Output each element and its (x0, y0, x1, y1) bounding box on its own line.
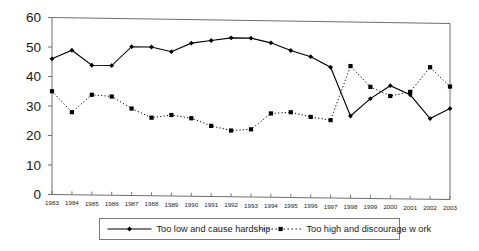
line-chart: 0102030405060 19831984198519861987198819… (0, 0, 479, 251)
data-point-1997 (329, 118, 333, 122)
x-tick-label-2001: 2001 (403, 204, 417, 211)
x-tick-label-1999: 1999 (364, 203, 378, 210)
data-point-2003 (448, 106, 453, 111)
data-point-1983 (50, 56, 55, 61)
data-point-1988 (149, 45, 154, 50)
series-line (52, 38, 450, 119)
data-point-1993 (249, 127, 253, 131)
data-point-1988 (149, 116, 153, 120)
x-tick-label-1987: 1987 (125, 200, 139, 207)
y-tick-label-30: 30 (26, 99, 41, 114)
y-tick-label-20: 20 (26, 128, 41, 143)
x-tick-label-1986: 1986 (105, 200, 119, 207)
data-point-1990 (189, 116, 193, 120)
x-tick-label-1989: 1989 (165, 201, 179, 208)
legend-square-icon (279, 227, 283, 231)
data-point-2000 (388, 94, 392, 98)
data-point-2002 (428, 65, 432, 69)
data-point-1998 (348, 64, 352, 68)
x-tick-label-1992: 1992 (224, 201, 238, 208)
data-point-1994 (269, 40, 274, 45)
x-tick-label-1988: 1988 (145, 200, 159, 207)
x-tick-label-1995: 1995 (284, 202, 298, 209)
x-axis-labels: 1983198419851986198719881989199019911992… (45, 199, 457, 211)
data-point-2001 (408, 90, 412, 94)
data-point-1991 (209, 124, 213, 128)
data-point-1986 (110, 94, 114, 98)
x-tick-label-1997: 1997 (324, 203, 338, 210)
y-tick-label-60: 60 (26, 10, 41, 25)
data-point-1995 (289, 110, 293, 114)
data-point-1989 (169, 49, 174, 54)
data-point-1992 (229, 35, 234, 40)
data-point-1985 (90, 93, 94, 97)
data-point-1989 (169, 113, 173, 117)
data-point-1984 (70, 110, 74, 114)
y-tick-label-0: 0 (33, 187, 41, 202)
data-point-2003 (448, 84, 452, 88)
x-tick-label-1996: 1996 (304, 202, 318, 209)
x-tick-label-1990: 1990 (184, 201, 198, 208)
data-point-1996 (308, 54, 313, 59)
plot-frame (52, 18, 450, 200)
x-tick-label-1998: 1998 (344, 203, 358, 210)
data-point-1996 (309, 115, 313, 119)
x-tick-label-1994: 1994 (264, 202, 278, 209)
x-tick-label-2003: 2003 (443, 204, 457, 211)
y-axis-labels: 0102030405060 (26, 10, 41, 202)
data-point-1994 (269, 111, 273, 115)
y-tick-label-40: 40 (26, 69, 41, 84)
x-tick-label-2000: 2000 (383, 203, 397, 210)
data-point-1987 (130, 106, 134, 110)
data-point-1991 (209, 38, 214, 43)
data-point-1999 (368, 85, 372, 89)
x-tick-label-2002: 2002 (423, 204, 437, 211)
x-tick-label-1993: 1993 (244, 202, 258, 209)
legend-box: Too low and cause hardshipToo high and d… (100, 219, 432, 240)
legend-label-too-low: Too low and cause hardship (157, 224, 271, 234)
x-tick-label-1983: 1983 (45, 199, 59, 206)
x-tick-label-1984: 1984 (65, 199, 79, 206)
y-tick-label-10: 10 (26, 158, 41, 173)
series-too-low (50, 35, 453, 121)
y-axis-ticks (48, 18, 52, 195)
x-tick-label-1985: 1985 (85, 200, 99, 207)
x-tick-label-1991: 1991 (204, 201, 218, 208)
data-point-1983 (50, 89, 54, 93)
data-point-1997 (328, 65, 333, 70)
data-point-1990 (189, 41, 194, 46)
data-point-1992 (229, 128, 233, 132)
chart-page: 0102030405060 19831984198519861987198819… (0, 0, 479, 251)
series-too-high (50, 64, 452, 133)
data-point-1995 (288, 48, 293, 53)
series-layer (50, 35, 453, 132)
legend-label-too-high: Too high and discourage w ork (307, 224, 432, 234)
data-point-1993 (249, 36, 254, 41)
y-tick-label-50: 50 (26, 40, 41, 55)
